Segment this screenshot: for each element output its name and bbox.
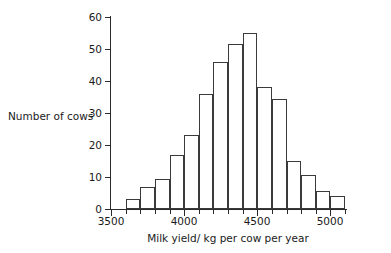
y-tick-60 [105,17,110,18]
histogram-bar [243,33,258,209]
histogram-bar [170,155,185,209]
histogram-bar [316,191,331,209]
histogram-bar [140,187,155,209]
x-tick-label-3500: 3500 [86,216,136,227]
y-tick-30 [105,113,110,114]
x-tick-3600 [126,210,127,214]
y-tick-50 [105,49,110,50]
x-tick-4800 [301,210,302,214]
y-tick-20 [105,145,110,146]
histogram-bars [111,17,345,209]
y-tick-40 [105,81,110,82]
x-tick-4700 [287,210,288,214]
histogram-bar [228,44,243,209]
y-tick-label-text: 40 [60,76,102,87]
y-tick-label-text: 50 [60,44,102,55]
y-tick-label-text: 60 [60,12,102,23]
x-tick-3700 [140,210,141,214]
histogram-bar [257,87,272,209]
x-tick-3900 [170,210,171,214]
x-tick-4400 [243,210,244,214]
x-axis-label: Milk yield/ kg per cow per year [111,232,345,244]
histogram-bar [155,179,170,209]
x-tick-label-5000: 5000 [305,216,355,227]
y-tick-label-text: 10 [60,172,102,183]
histogram-bar [184,135,199,209]
y-tick-label-text: 0 [60,204,102,215]
x-tick-3800 [155,210,156,214]
x-tick-4300 [228,210,229,214]
x-tick-4200 [213,210,214,214]
histogram-bar [330,196,345,209]
x-tick-label-4000: 4000 [159,216,209,227]
histogram-bar [287,161,302,209]
histogram-bar [213,62,228,209]
x-tick-5100 [345,210,346,214]
x-tick-4600 [272,210,273,214]
y-tick-label-text: 20 [60,140,102,151]
histogram-bar [126,199,141,209]
histogram-bar [199,94,214,209]
histogram-bar [272,99,287,209]
y-tick-0 [105,209,110,210]
x-tick-4900 [316,210,317,214]
x-tick-label-4500: 4500 [232,216,282,227]
histogram-figure: Number of cows 0102030405060 35004000450… [0,0,391,253]
x-tick-4100 [199,210,200,214]
histogram-bar [301,175,316,209]
y-tick-10 [105,177,110,178]
y-tick-label-text: 30 [60,108,102,119]
